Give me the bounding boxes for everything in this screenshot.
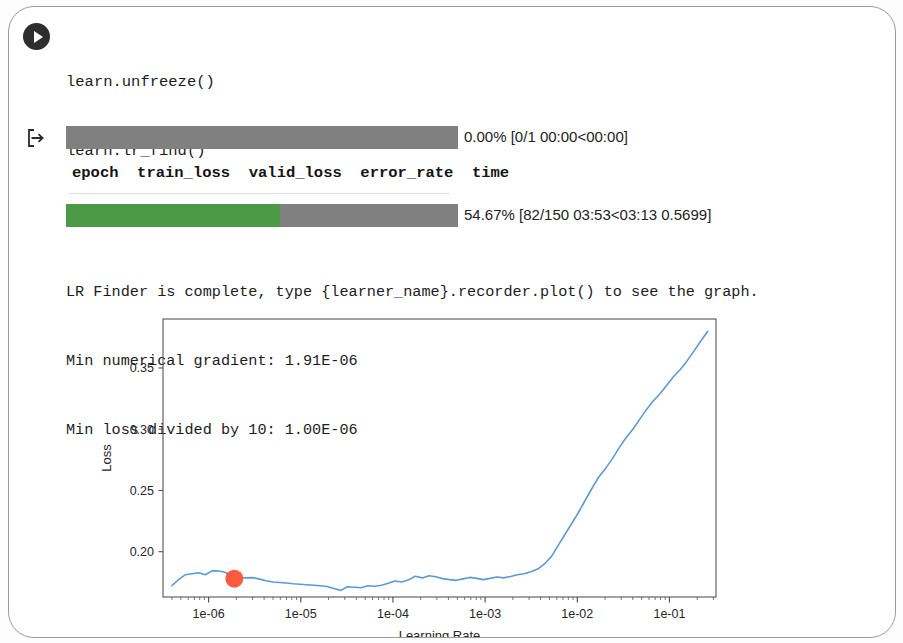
epoch-progress-label: 0.00% [0/1 00:00<00:00] [464, 128, 628, 145]
x-axis-title: Learning Rate [399, 628, 481, 638]
code-line-1: learn.unfreeze() [66, 71, 401, 94]
x-tick-label: 1e-06 [193, 607, 225, 621]
y-axis-title: Loss [99, 444, 114, 472]
screenshot-root: learn.unfreeze() learn.lr_find() learn.r… [0, 0, 903, 643]
plot-frame [163, 319, 716, 597]
metrics-table-divider [69, 193, 449, 194]
y-tick-label: 0.20 [130, 545, 154, 559]
batch-progress-fill [66, 204, 280, 227]
x-tick-label: 1e-02 [561, 607, 593, 621]
lr-finder-chart-svg: 0.200.250.300.351e-061e-051e-041e-031e-0… [71, 307, 751, 638]
output-message-1: LR Finder is complete, type {learner_nam… [66, 281, 759, 304]
lr-finder-plot: 0.200.250.300.351e-061e-051e-041e-031e-0… [71, 307, 751, 638]
x-tick-label: 1e-03 [469, 607, 501, 621]
epoch-progress-bar [66, 126, 458, 149]
batch-progress-label: 54.67% [82/150 03:53<03:13 0.5699] [464, 206, 711, 223]
x-tick-label: 1e-05 [285, 607, 317, 621]
x-tick-label: 1e-04 [377, 607, 409, 621]
y-tick-label: 0.30 [130, 423, 154, 437]
x-tick-label: 1e-01 [653, 607, 685, 621]
play-triangle [34, 31, 43, 43]
batch-progress-bar [66, 204, 458, 227]
notebook-cell-card: learn.unfreeze() learn.lr_find() learn.r… [8, 6, 896, 638]
y-tick-label: 0.25 [130, 484, 154, 498]
play-icon[interactable] [23, 23, 50, 50]
loss-curve [172, 331, 708, 590]
output-arrow-icon [25, 127, 47, 149]
y-tick-label: 0.35 [130, 361, 154, 375]
suggested-lr-marker [225, 570, 243, 588]
metrics-table-header: epoch train_loss valid_loss error_rate t… [72, 164, 509, 182]
